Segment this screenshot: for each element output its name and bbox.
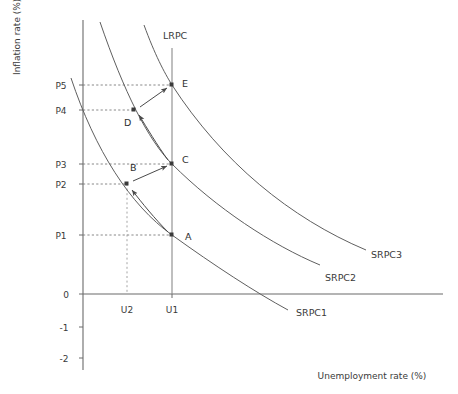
point-label-b: B xyxy=(130,162,137,173)
x-axis-title: Unemployment rate (%) xyxy=(318,371,427,381)
point-marker-d xyxy=(132,108,136,112)
srpc3-curve xyxy=(144,25,366,250)
phillips-curve-diagram: A B C D E P5 P4 P3 P2 P1 0 -1 -2 U2 U1 L… xyxy=(0,0,458,394)
curve-label-lrpc: LRPC xyxy=(163,30,188,41)
point-marker-e xyxy=(170,83,174,87)
y-tick-label-zero: 0 xyxy=(63,290,69,300)
arrow-c-to-d xyxy=(139,115,168,160)
point-label-d: D xyxy=(124,117,131,128)
y-tick-label-p2: P2 xyxy=(55,180,66,190)
point-label-e: E xyxy=(182,78,188,89)
y-tick-label-p3: P3 xyxy=(55,160,66,170)
point-marker-a xyxy=(170,233,174,237)
curve-label-srpc3: SRPC3 xyxy=(371,249,402,260)
srpc1-curve xyxy=(71,78,288,310)
curve-label-srpc2: SRPC2 xyxy=(325,272,356,283)
y-tick-label-neg2: -2 xyxy=(60,354,69,364)
arrow-b-to-c xyxy=(133,166,167,181)
arrow-a-to-b xyxy=(132,190,168,232)
y-tick-marks xyxy=(79,85,83,358)
srpc2-curve xyxy=(100,22,320,265)
point-label-a: A xyxy=(185,231,192,242)
y-tick-label-neg1: -1 xyxy=(60,323,69,333)
x-tick-label-u1: U1 xyxy=(166,305,178,315)
x-tick-label-u2: U2 xyxy=(121,305,133,315)
point-marker-b xyxy=(125,182,129,186)
curve-label-srpc1: SRPC1 xyxy=(296,307,327,318)
arrow-d-to-e xyxy=(140,88,167,107)
y-tick-label-p1: P1 xyxy=(55,231,66,241)
y-tick-label-p5: P5 xyxy=(55,81,66,91)
point-label-c: C xyxy=(182,154,189,165)
point-marker-c xyxy=(170,162,174,166)
y-tick-label-p4: P4 xyxy=(55,106,66,116)
y-axis-title: Inflation rate (%) xyxy=(12,0,22,75)
